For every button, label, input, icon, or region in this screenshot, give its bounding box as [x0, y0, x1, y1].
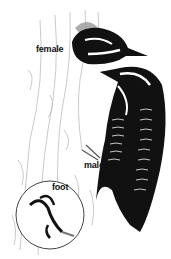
label-female: female: [36, 45, 63, 54]
female-bird: [72, 28, 148, 65]
label-male: male: [84, 161, 104, 170]
illustration-drawing: [0, 0, 171, 259]
foot-inset: [16, 181, 84, 249]
male-bird: [82, 67, 166, 232]
label-foot: foot: [52, 183, 68, 192]
woodpecker-illustration: female male foot: [0, 0, 171, 259]
